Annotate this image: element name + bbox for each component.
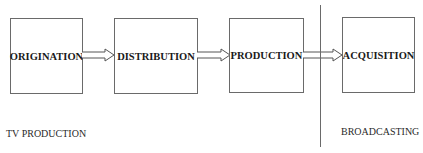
arrow-right-icon <box>82 48 115 62</box>
section-label-tv-production: TV PRODUCTION <box>6 128 86 139</box>
stage-production: PRODUCTION <box>229 18 304 93</box>
stage-distribution: DISTRIBUTION <box>114 18 198 94</box>
arrow-right-icon <box>303 48 343 62</box>
stage-label: ORIGINATION <box>10 51 83 62</box>
section-divider <box>320 5 321 147</box>
stage-label: ACQUISITION <box>343 50 415 61</box>
stage-acquisition: ACQUISITION <box>342 17 415 93</box>
stage-label: PRODUCTION <box>231 50 303 61</box>
stage-label: DISTRIBUTION <box>117 51 195 62</box>
stage-origination: ORIGINATION <box>10 18 83 94</box>
section-label-broadcasting: BROADCASTING <box>341 126 419 137</box>
arrow-right-icon <box>197 48 231 62</box>
